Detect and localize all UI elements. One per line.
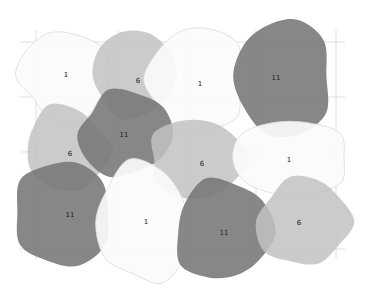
- blob-label: 11: [272, 74, 281, 82]
- blob-label: 6: [68, 150, 73, 158]
- blob-label: 11: [66, 211, 75, 219]
- blob-label: 6: [297, 219, 302, 227]
- blob-label: 11: [220, 229, 229, 237]
- blob-label: 1: [287, 156, 291, 164]
- blob-label: 1: [144, 218, 148, 226]
- blob-label: 6: [136, 77, 141, 85]
- blob-label: 11: [120, 131, 129, 139]
- blob-region-11: [233, 19, 328, 137]
- blob-label: 1: [64, 71, 68, 79]
- blob-layer: [16, 19, 355, 284]
- blob-diagram: 1611161161111116: [0, 0, 365, 299]
- blob-label: 1: [198, 80, 202, 88]
- blob-region-11: [17, 162, 109, 267]
- blob-label: 6: [200, 160, 205, 168]
